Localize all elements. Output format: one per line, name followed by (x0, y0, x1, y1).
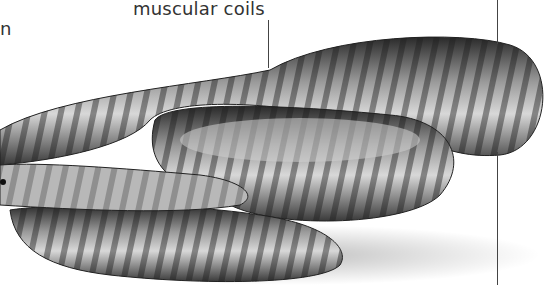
right-leader-line-top (497, 0, 498, 44)
right-leader-line-bottom (497, 152, 498, 285)
snake-eye (0, 179, 6, 185)
snake-illustration (0, 0, 546, 290)
